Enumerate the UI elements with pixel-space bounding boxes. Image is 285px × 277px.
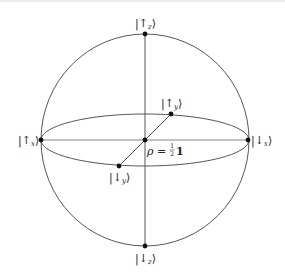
- point-down-x: [246, 138, 251, 143]
- point-down-y: [117, 164, 122, 169]
- fraction-denominator: 2: [170, 150, 174, 158]
- point-up-x: [39, 138, 44, 143]
- point-center: [143, 138, 148, 143]
- label-up-z: |↑z⟩: [135, 17, 156, 31]
- label-down-y: |↓y⟩: [109, 171, 130, 185]
- rho-equals: ρ =: [146, 145, 166, 158]
- label-center-density: ρ = 1 2 1: [146, 142, 184, 158]
- label-down-x: |↓x⟩: [251, 134, 272, 148]
- fraction-numerator: 1: [170, 142, 174, 150]
- label-up-x: |↑x⟩: [18, 134, 39, 148]
- point-up-z: [143, 32, 148, 37]
- point-down-z: [143, 244, 148, 249]
- label-down-z: |↓z⟩: [135, 252, 156, 266]
- identity-symbol: 1: [176, 145, 184, 158]
- point-up-y: [169, 112, 174, 117]
- label-up-y: |↑y⟩: [161, 97, 182, 111]
- bloch-sphere-diagram: |↑z⟩ |↓z⟩ |↑x⟩ |↓x⟩ |↑y⟩ |↓y⟩ ρ = 1 2 1: [0, 0, 285, 277]
